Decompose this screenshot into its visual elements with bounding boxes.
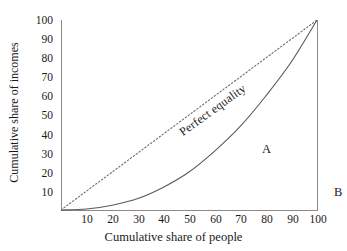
plot-area: Perfect equality A B [61, 20, 318, 211]
curve-layer [61, 20, 318, 211]
area-b-label: B [334, 185, 342, 200]
lorenz-curve-chart: 100 90 80 70 60 50 40 30 20 10 10 20 30 … [0, 0, 347, 251]
x-axis-title: Cumulative share of people [0, 230, 347, 245]
x-tick-100: 100 [303, 213, 333, 225]
perfect-equality-line [61, 20, 317, 210]
y-axis-title: Cumulative share of incomes [7, 13, 22, 213]
area-a-label: A [262, 142, 271, 157]
